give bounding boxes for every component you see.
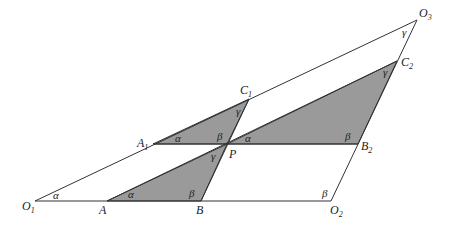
similar-triangles-diagram: O1 A B O2 A1 P B2 C1 C2 O3 α α β γ β α β… — [0, 0, 458, 227]
angle-beta-O2: β — [321, 187, 328, 199]
angle-beta-P-upper: β — [216, 130, 223, 142]
angle-beta-B: β — [188, 187, 195, 199]
label-A1: A1 — [136, 136, 148, 152]
label-C1: C1 — [240, 83, 252, 99]
label-O3: O3 — [419, 6, 432, 22]
angle-alpha-A: α — [128, 188, 134, 200]
angle-alpha-P-right: α — [245, 132, 251, 144]
angle-beta-B2: β — [344, 130, 351, 142]
label-O1: O1 — [22, 199, 35, 215]
label-C2: C2 — [401, 55, 413, 71]
label-B2: B2 — [361, 139, 372, 155]
angle-alpha-O1: α — [53, 189, 59, 201]
angle-gamma-C1: γ — [236, 105, 241, 117]
angle-gamma-P-lower: γ — [211, 150, 216, 162]
label-O2: O2 — [330, 203, 343, 219]
angle-gamma-O3: γ — [402, 26, 407, 38]
label-P: P — [228, 147, 237, 161]
label-B: B — [196, 203, 204, 217]
angle-alpha-A1: α — [175, 132, 181, 144]
triangle-A1-P-C1 — [153, 99, 249, 144]
angle-gamma-C2: γ — [383, 66, 388, 78]
label-A: A — [98, 203, 107, 217]
